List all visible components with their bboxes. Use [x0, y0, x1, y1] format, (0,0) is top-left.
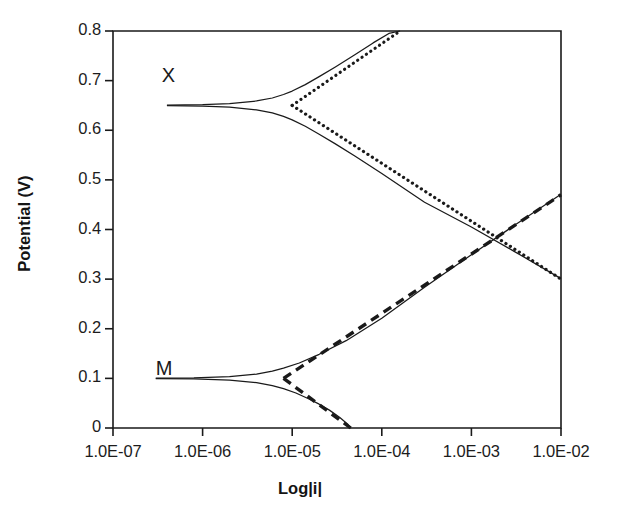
- y-axis-title: Potential (V): [15, 144, 34, 304]
- y-axis-tick-label-2: 0.6: [41, 119, 101, 138]
- y-axis-tick-label-3: 0.5: [41, 169, 101, 188]
- y-axis-tick-label-1: 0.7: [41, 70, 101, 89]
- y-axis-tick-label-5: 0.3: [41, 268, 101, 287]
- y-axis-tick-label-7: 0.1: [41, 367, 101, 386]
- series-annotation-x: X: [162, 64, 175, 87]
- series-M-reaction-measured-polarization-cathodic: [156, 379, 351, 428]
- y-axis-tick-label-6: 0.2: [41, 318, 101, 337]
- series-M-reaction-measured-polarization-anodic: [156, 194, 561, 378]
- series-annotation-m: M: [156, 357, 173, 380]
- data-series-group: [156, 31, 561, 428]
- y-axis-tick-label-8: 0: [41, 417, 101, 436]
- plot-area-border: [113, 31, 561, 428]
- series-X-reaction-measured-polarization-cathodic: [167, 106, 561, 279]
- x-axis-title: Log|i|: [278, 479, 322, 498]
- evans-diagram-chart: 0.80.70.60.50.40.30.20.101.0E-071.0E-061…: [0, 0, 618, 530]
- series-X-reaction-tafel-anodic: [292, 31, 400, 105]
- series-X-reaction-measured-polarization: [167, 31, 400, 105]
- series-X-reaction-tafel-cathodic: [292, 105, 561, 279]
- y-axis-tick-label-4: 0.4: [41, 219, 101, 238]
- y-axis-tick-label-0: 0.8: [41, 20, 101, 39]
- x-axis-tick-label-5: 1.0E-02: [506, 442, 616, 461]
- axes-group: [113, 31, 561, 428]
